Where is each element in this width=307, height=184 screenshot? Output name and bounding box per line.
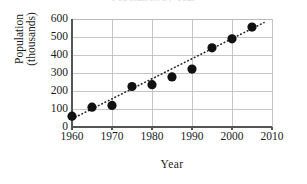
data-point	[127, 82, 136, 91]
y-tick-label: 500	[30, 31, 68, 43]
horizontal-gridlines	[72, 19, 272, 109]
y-tick-label: 400	[30, 49, 68, 61]
data-point	[227, 34, 236, 43]
y-tick-label: 600	[30, 13, 68, 25]
y-tick-label: 300	[30, 67, 68, 79]
y-tick-label: 200	[30, 85, 68, 97]
x-tick-label: 1960	[50, 131, 94, 143]
plot-canvas	[70, 14, 280, 136]
x-tick-label: 1990	[170, 131, 214, 143]
data-point	[147, 80, 156, 89]
x-tick-label: 2000	[210, 131, 254, 143]
data-point	[247, 23, 256, 32]
y-tick-label: 100	[30, 103, 68, 115]
x-tick-label: 1970	[90, 131, 134, 143]
plot-area	[72, 19, 272, 127]
x-tick-label: 1980	[130, 131, 174, 143]
data-point	[187, 64, 196, 73]
y-axis-title-line1: Population	[13, 14, 25, 64]
data-point	[87, 103, 96, 112]
chart-title: Population by Year	[0, 0, 307, 2]
data-point	[107, 101, 116, 110]
y-axis-tick-labels: 0100200300400500600	[30, 12, 68, 132]
data-point	[67, 112, 76, 121]
data-point	[167, 72, 176, 81]
x-axis-tick-labels: 196019701980199020002010	[0, 131, 307, 145]
x-tick-label: 2010	[250, 131, 294, 143]
data-point	[207, 43, 216, 52]
x-axis-title: Year	[72, 158, 272, 170]
